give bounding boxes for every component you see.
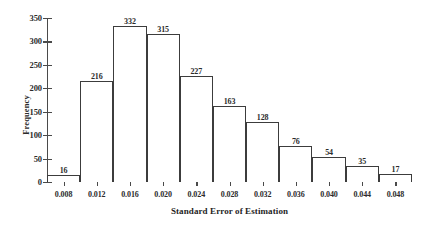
bar-value-label: 216 [91,72,103,81]
y-tick-label: 100 [30,130,42,140]
bar-value-label: 332 [124,17,136,26]
histogram-chart: Frequency 050100150200250300350 0.0080.0… [0,0,428,230]
x-tick-label: 0.028 [221,190,239,199]
bar-value-label: 315 [157,25,169,34]
y-tick-label: 200 [30,83,42,93]
histogram-bar: 216 [80,81,113,182]
y-tick-label: 250 [30,60,42,70]
bar-value-label: 16 [60,166,68,175]
bar-value-label: 17 [391,165,399,174]
y-tick-mark [43,112,52,113]
histogram-bar: 332 [113,26,146,182]
y-tick-mark [43,159,52,160]
y-tick-mark [43,88,52,89]
y-tick-mark [43,135,52,136]
x-tick-label: 0.048 [387,190,405,199]
x-axis-title: Standard Error of Estimation [47,206,412,216]
x-tick-label: 0.032 [254,190,272,199]
x-tick-label: 0.012 [88,190,106,199]
histogram-bar: 16 [47,175,80,182]
histogram-bar: 227 [180,76,213,182]
histogram-bar: 35 [346,166,379,182]
x-tick-label: 0.036 [287,190,305,199]
plot-area: 050100150200250300350 0.0080.0120.0160.0… [47,18,412,182]
y-tick-mark [43,18,52,19]
histogram-bar: 54 [312,157,345,182]
y-tick-label: 350 [30,13,42,23]
histogram-bar: 315 [147,34,180,182]
y-tick-label: 50 [34,154,42,164]
y-tick-mark [43,182,52,183]
y-tick-mark [43,65,52,66]
x-tick-label: 0.020 [154,190,172,199]
y-tick-label: 300 [30,36,42,46]
histogram-bar: 76 [279,146,312,182]
x-tick-label: 0.024 [188,190,206,199]
histogram-bar: 163 [213,106,246,182]
histogram-bar: 128 [246,122,279,182]
bar-value-label: 54 [325,148,333,157]
x-tick-label: 0.044 [353,190,371,199]
x-tick-label: 0.008 [55,190,73,199]
bar-value-label: 76 [292,137,300,146]
y-tick-label: 0 [38,177,42,187]
x-tick-label: 0.040 [320,190,338,199]
bar-value-label: 163 [224,97,236,106]
x-tick-label: 0.016 [121,190,139,199]
bar-value-label: 128 [257,113,269,122]
bar-value-label: 227 [190,67,202,76]
y-tick-mark [43,41,52,42]
bar-value-label: 35 [358,157,366,166]
y-tick-label: 150 [30,107,42,117]
histogram-bar: 17 [379,174,412,182]
